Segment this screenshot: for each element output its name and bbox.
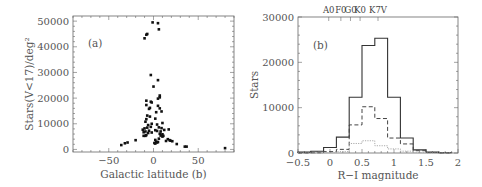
data-point — [150, 126, 153, 129]
x-axis-title: R−I magnitude — [337, 169, 418, 181]
data-point — [120, 144, 123, 147]
data-point — [161, 135, 164, 138]
data-point — [160, 127, 163, 130]
data-point — [157, 105, 160, 108]
x-axis-title: Galactic latitude (b) — [100, 168, 206, 180]
data-point — [143, 37, 146, 40]
data-point — [155, 111, 158, 114]
data-point — [146, 114, 149, 117]
data-point — [158, 126, 161, 129]
y-tick-label: 50000 — [37, 16, 69, 27]
data-point — [156, 123, 159, 126]
data-point — [141, 128, 144, 131]
data-point — [145, 99, 148, 102]
data-point — [154, 117, 157, 120]
data-point — [157, 97, 160, 100]
data-point — [165, 140, 168, 143]
x-tick-label: 0 — [327, 157, 333, 168]
data-point — [148, 108, 151, 111]
x-tick-label: 1 — [391, 157, 397, 168]
data-point — [171, 140, 174, 143]
data-point — [144, 135, 147, 138]
data-point — [157, 79, 160, 82]
y-tick-label: 30000 — [37, 67, 69, 78]
y-tick-label: 0 — [288, 148, 294, 159]
spectral-type-label: K7V — [369, 5, 388, 15]
data-point — [152, 85, 155, 88]
histogram-total — [298, 38, 452, 153]
data-point — [156, 130, 159, 133]
data-point — [126, 141, 129, 144]
data-point — [157, 141, 160, 144]
figure: −5005001000020000300004000050000Galactic… — [0, 0, 482, 187]
data-point — [150, 74, 153, 77]
panel-label-a: (a) — [88, 37, 102, 49]
plot-frame-b — [298, 17, 458, 153]
data-point — [145, 33, 148, 36]
y-tick-label: 10000 — [37, 118, 69, 129]
y-tick-label: 0 — [63, 144, 69, 155]
data-point — [185, 145, 188, 148]
data-point — [145, 118, 148, 121]
data-point — [148, 129, 151, 132]
x-tick-label: −0.5 — [286, 157, 310, 168]
y-axis-title: Stars(V<17)/deg² — [23, 37, 35, 130]
x-tick-label: 1.5 — [418, 157, 434, 168]
data-point — [150, 122, 153, 125]
data-point — [134, 139, 137, 142]
spectral-type-label: A0 — [322, 5, 335, 15]
data-point — [147, 124, 150, 127]
y-tick-label: 10000 — [262, 102, 294, 113]
data-point — [158, 137, 161, 140]
data-point — [158, 28, 161, 31]
x-tick-label: 2 — [455, 157, 461, 168]
data-point — [163, 129, 166, 132]
data-point — [150, 101, 153, 104]
spectral-type-label: K0 — [354, 5, 366, 15]
data-point — [159, 130, 162, 133]
x-tick-label: 50 — [192, 155, 205, 166]
data-point — [167, 128, 170, 131]
data-point — [158, 107, 161, 110]
data-point — [124, 142, 127, 145]
histogram-panel-b: −0.500.511.520100002000030000R−I magnitu… — [248, 5, 461, 181]
data-point — [146, 126, 149, 129]
data-point — [145, 104, 148, 107]
data-point — [160, 110, 163, 113]
data-point — [142, 131, 145, 134]
x-tick-label: 0 — [150, 155, 156, 166]
y-tick-label: 20000 — [37, 93, 69, 104]
data-point — [224, 147, 227, 150]
y-axis-title: Stars — [248, 71, 260, 99]
data-point — [161, 122, 164, 125]
data-point — [157, 22, 160, 25]
data-point — [149, 115, 152, 118]
data-point — [150, 131, 153, 134]
data-point — [151, 21, 154, 24]
data-point — [175, 143, 178, 146]
x-tick-label: −50 — [98, 155, 119, 166]
panel-label-b: (b) — [313, 39, 328, 51]
data-point — [144, 120, 147, 123]
data-point — [154, 142, 157, 145]
y-tick-label: 20000 — [262, 57, 294, 68]
x-tick-label: 0.5 — [354, 157, 370, 168]
scatter-panel-a: −5005001000020000300004000050000Galactic… — [23, 16, 234, 180]
y-tick-label: 40000 — [37, 41, 69, 52]
y-tick-label: 30000 — [262, 12, 294, 23]
